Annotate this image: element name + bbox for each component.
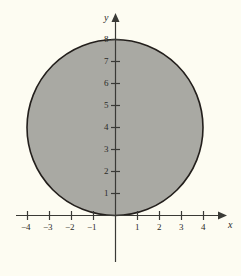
y-tick-label: 6 — [104, 79, 109, 88]
y-tick-label: 7 — [104, 57, 109, 66]
y-tick-label: 1 — [104, 189, 109, 198]
x-axis-label: x — [228, 220, 232, 230]
circle-region-plot — [0, 0, 241, 276]
x-tick-label: −1 — [87, 223, 97, 232]
y-tick-label: 8 — [104, 35, 109, 44]
x-tick-label: −3 — [43, 223, 53, 232]
y-tick-label: 2 — [104, 167, 109, 176]
figure-canvas: −4 −3 −2 −1 1 2 3 4 1 2 3 4 5 6 7 8 y x — [0, 0, 241, 276]
x-tick-label: −2 — [65, 223, 75, 232]
x-tick-label: 1 — [135, 223, 140, 232]
y-tick-label: 5 — [104, 101, 109, 110]
y-tick-label: 4 — [104, 123, 109, 132]
y-axis-arrowhead — [112, 13, 120, 22]
x-tick-label: 4 — [201, 223, 206, 232]
x-tick-label: 3 — [179, 223, 184, 232]
x-axis-arrowhead — [218, 212, 227, 220]
y-axis-label: y — [104, 13, 108, 23]
x-tick-label: 2 — [157, 223, 162, 232]
y-tick-label: 3 — [104, 145, 109, 154]
x-tick-label: −4 — [21, 223, 31, 232]
